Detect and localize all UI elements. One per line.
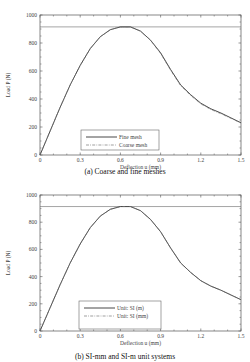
- chart-panel-a: 00.30.60.91.21.502004006008001000Deflect…: [0, 0, 250, 181]
- legend: Unit: SI (m)Unit: SI (mm): [79, 301, 161, 329]
- x-tick-label: 0.9: [157, 157, 164, 163]
- y-tick-label: 1000: [26, 192, 37, 198]
- x-tick-label: 0: [39, 157, 42, 163]
- x-tick-label: 1.2: [197, 333, 204, 339]
- x-tick-label: 1.5: [238, 157, 245, 163]
- y-tick-label: 400: [29, 96, 38, 102]
- y-tick-label: 800: [29, 40, 38, 46]
- x-tick-label: 1.5: [238, 333, 245, 339]
- x-axis-title: Deflection u (mm): [120, 340, 161, 347]
- caption-b: (b) SI-mm and SI-m unit systems: [0, 352, 250, 361]
- y-tick-label: 600: [29, 246, 38, 252]
- y-tick-label: 600: [29, 68, 38, 74]
- x-tick-label: 0.3: [77, 333, 84, 339]
- y-tick-label: 0: [34, 328, 37, 334]
- x-tick-label: 0.6: [117, 333, 124, 339]
- x-tick-label: 0: [39, 333, 42, 339]
- y-axis-title: Load P (N): [5, 73, 12, 98]
- chart-b-svg: 00.30.60.91.21.502004006008001000Deflect…: [0, 181, 250, 362]
- y-tick-label: 800: [29, 219, 38, 225]
- x-tick-label: 0.6: [117, 157, 124, 163]
- y-tick-label: 0: [34, 152, 37, 158]
- caption-a: (a) Coarse and fine meshes: [0, 167, 250, 176]
- legend-label: Unit: SI (mm): [117, 313, 148, 320]
- legend-label: Unit: SI (m): [117, 305, 144, 312]
- x-tick-label: 0.9: [157, 333, 164, 339]
- legend-label: Coarse mesh: [119, 142, 148, 148]
- chart-panel-b: 00.30.60.91.21.502004006008001000Deflect…: [0, 181, 250, 362]
- y-tick-label: 1000: [26, 12, 37, 18]
- x-tick-label: 1.2: [197, 157, 204, 163]
- y-axis-title: Load P (N): [5, 251, 12, 276]
- y-tick-label: 200: [29, 301, 38, 307]
- legend-label: Fine mesh: [119, 134, 142, 140]
- y-tick-label: 200: [29, 124, 38, 130]
- chart-a-svg: 00.30.60.91.21.502004006008001000Deflect…: [0, 0, 250, 181]
- y-tick-label: 400: [29, 274, 38, 280]
- x-tick-label: 0.3: [77, 157, 84, 163]
- legend: Fine meshCoarse mesh: [81, 130, 159, 150]
